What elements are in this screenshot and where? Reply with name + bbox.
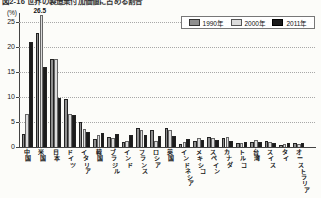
x-axis-label-char: 湾 [254,155,261,161]
bar-2011年-イタリア [86,132,90,147]
x-axis-label-char: イ [68,155,75,161]
x-axis-label-char: ル [113,168,120,174]
x-axis-label: オーストラリア [295,149,310,193]
y-axis-tick-label: 5 [1,118,15,126]
x-axis-label-char: ラ [139,155,146,161]
bar-2011年-中国 [29,42,33,147]
x-axis-label-char: ス [142,168,149,174]
bar-2011年-米国 [43,67,47,148]
x-axis-label-char: 本 [53,155,60,161]
x-axis-label: ドイツ [67,149,77,168]
x-axis-label: イタリア [81,149,92,174]
screenshot-root: 図2-16 世界の製造業付加価値に占める割合 (%) 0510152025 中国… [0,0,321,198]
y-axis-tickmark [16,47,19,48]
x-axis-label-char: ド [126,162,133,168]
bar-2011年-タイ [287,143,291,148]
bar-2011年-メキシコ [201,140,205,148]
x-axis-label-char: ジ [112,162,119,168]
bar-chart-plot-area: 0510152025 中国米国日本ドイツイタリア韓国ブラジルインドフランスロシア… [0,0,321,198]
x-axis-label-char: ス [269,162,276,168]
bar-2011年-スイス [272,143,276,148]
x-axis-label: ロシア [152,149,162,168]
y-axis-tick-label: 0 [1,143,15,151]
x-axis-label-char: シ [154,155,161,161]
x-axis-label-char: 国 [168,155,175,161]
legend-label: 1990年 [203,18,224,28]
x-axis-label-char: 国 [39,155,46,161]
x-axis-label: 韓国 [95,149,103,162]
x-axis-label-char: ン [213,168,220,174]
x-axis-label-char: ア [187,180,194,186]
x-axis-label: インド [124,149,134,168]
y-axis-line [19,13,20,147]
x-axis-label: ブラジル [109,149,120,174]
x-axis-label-char: ン [182,155,189,161]
gridline [19,72,315,73]
x-axis-label-char: ラ [111,155,118,161]
x-axis-label: フランス [138,149,149,174]
x-axis-label: カナダ [224,149,234,168]
y-axis-tick-label: 10 [1,93,15,101]
bar-2011年-フランス [144,135,148,148]
x-axis-label-char: イ [268,155,275,161]
y-axis-tickmark [16,22,19,23]
legend-item-2000年: 2000年 [231,18,266,28]
x-axis-label: スイス [267,149,277,168]
x-axis-label-char: ナ [225,155,232,161]
x-axis-label-char: ペ [211,155,218,161]
bar-2011年-カナダ [229,141,233,147]
x-axis-label-char: ア [85,168,92,174]
x-axis-label-char: キ [196,155,203,161]
legend-label: 2011年 [286,18,307,28]
x-axis-label-char: ス [298,162,305,168]
bar-2011年-日本 [58,98,62,148]
x-axis-label-char: コ [199,168,206,174]
bar-2011年-ドイツ [72,115,76,148]
x-axis-label-char: ル [239,155,246,161]
legend-swatch-icon [231,19,242,26]
x-axis-label: スペイン [210,149,221,174]
x-axis-label-char: リ [302,180,309,186]
x-axis-label-char: ン [141,162,148,168]
y-axis-tick-label: 15 [1,68,15,76]
bar-2011年-台湾 [258,142,262,147]
x-axis-label-char: ダ [226,162,233,168]
legend-item-1990年: 1990年 [189,18,224,28]
legend-label: 2000年 [245,18,266,28]
x-axis-label-char: タ [82,155,89,161]
x-axis-label-char: シ [198,162,205,168]
x-axis-label: 米国 [38,149,46,162]
x-axis-label-char: イ [282,155,289,161]
x-axis-label-char: リ [83,162,90,168]
x-axis-label: 台湾 [252,149,260,162]
legend-swatch-icon [272,19,283,26]
x-axis-label-char: 国 [25,155,32,161]
gridline [19,47,315,48]
x-axis-label: メキシコ [195,149,206,174]
y-axis-tickmark [16,97,19,98]
bar-2011年-スペイン [215,140,219,147]
x-axis-label-char: ン [125,155,132,161]
legend-box: 1990年2000年2011年 [181,16,315,29]
gridline [19,122,315,123]
x-axis-label: トルコ [238,149,248,168]
bar-2011年-インド [129,135,133,148]
x-axis-label: 日本 [52,149,60,162]
bar-2011年-ブラジル [115,134,119,148]
gridline [19,97,315,98]
y-axis-tick-label: 25 [1,18,15,26]
x-axis-label-char: ド [183,162,190,168]
x-axis-label-char: 国 [96,155,103,161]
x-axis-label-char: コ [241,162,248,168]
x-axis-label: 英国 [167,149,175,162]
y-axis-tick-label: 20 [1,43,15,51]
bar-2011年-ロシア [158,136,162,148]
x-axis-label-char: イ [212,162,219,168]
x-axis-label-char: ア [155,162,162,168]
legend-item-2011年: 2011年 [272,18,307,28]
x-axis-label: インドネシア [181,149,195,187]
bar-2011年-オーストラリア [301,143,305,147]
x-axis-label-char: ツ [69,162,76,168]
x-axis-label-char: ア [303,187,310,193]
x-axis-label-char: ー [297,155,304,161]
